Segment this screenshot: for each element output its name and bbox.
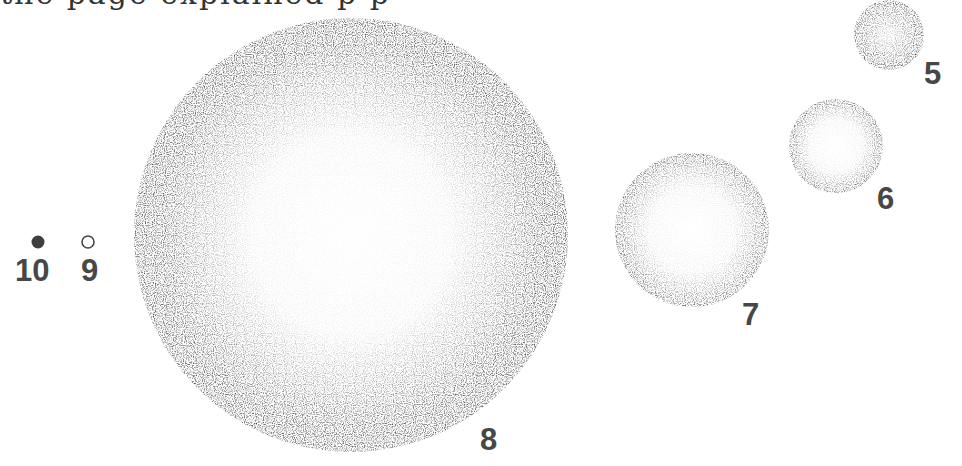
label-9: 9	[81, 255, 98, 286]
label-8: 8	[480, 424, 497, 455]
label-6: 6	[877, 183, 894, 214]
celestial-body-7	[615, 153, 769, 307]
celestial-body-8	[134, 18, 568, 452]
label-7: 7	[742, 299, 759, 330]
label-5: 5	[924, 58, 941, 89]
celestial-body-10	[32, 236, 45, 249]
celestial-body-6	[789, 99, 883, 193]
celestial-body-5	[854, 0, 924, 70]
figure-canvas	[0, 0, 962, 466]
celestial-body-9	[82, 236, 94, 248]
label-10: 10	[15, 255, 49, 286]
